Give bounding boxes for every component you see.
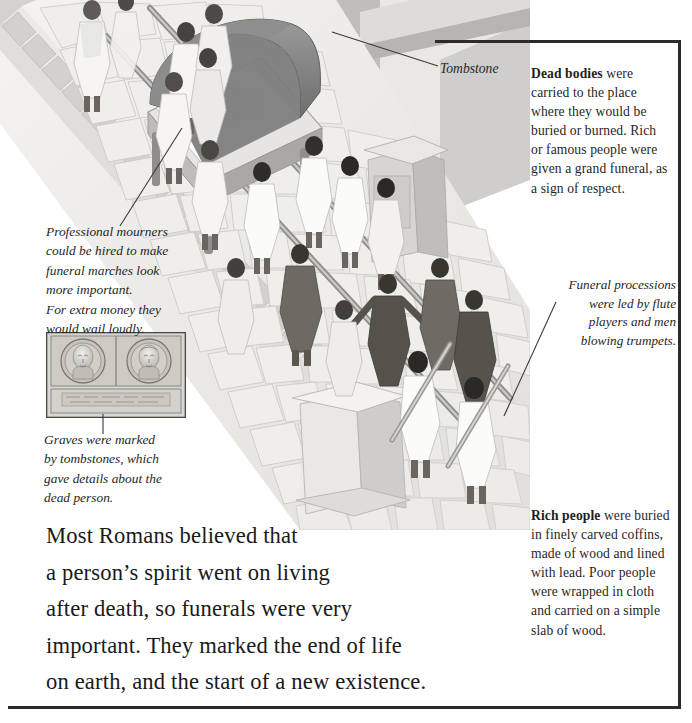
caption-line: were led by flute [528,295,676,314]
caption-line: For extra money they [46,300,228,319]
caption-line: players and men [528,313,676,332]
body-line: on earth, and the start of a new existen… [46,664,516,701]
caption-line: would wail loudly. [46,319,228,338]
sidebar-body-dead-bodies: were carried to the place where they wou… [531,66,668,196]
caption-line: Professional mourners [46,222,228,241]
caption-line: Funeral processions [528,276,676,295]
label-tombstone: Tombstone [440,61,498,77]
body-line: after death, so funerals were very [46,591,516,628]
caption-professional-mourners: Professional mourners could be hired to … [46,222,228,338]
caption-line: funeral marches look [46,261,228,280]
caption-graves-tombstones: Graves were marked by tombstones, which … [44,430,224,508]
caption-line: more important. [46,280,228,299]
divider-right-vertical [678,40,681,709]
caption-funeral-processions: Funeral processions were led by flute pl… [528,276,676,350]
caption-line: gave details about the [44,469,224,488]
sidebar-body-rich-people: were buried in finely carved coffins, ma… [531,508,670,638]
divider-bottom [8,706,680,709]
leader-line-tombstone [330,30,450,70]
body-line: Most Romans believed that [46,518,516,555]
caption-line: dead person. [44,488,224,507]
sidebar-lead-dead-bodies: Dead bodies [531,66,603,81]
main-body-paragraph: Most Romans believed that a person’s spi… [46,518,516,701]
body-line: a person’s spirit went on living [46,555,516,592]
caption-line: blowing trumpets. [528,332,676,351]
caption-line: could be hired to make [46,241,228,260]
divider-top-right [435,40,680,43]
caption-line: by tombstones, which [44,449,224,468]
page-root: Tombstone Professional mourners could be… [0,0,692,723]
sidebar-paragraph-dead-bodies: Dead bodies were carried to the place wh… [531,64,671,198]
body-line: important. They marked the end of life [46,628,516,665]
caption-line: Graves were marked [44,430,224,449]
tombstone-relief-image [46,332,186,418]
sidebar-lead-rich-people: Rich people [531,508,600,523]
sidebar-paragraph-rich-people: Rich people were buried in finely carved… [531,506,671,640]
